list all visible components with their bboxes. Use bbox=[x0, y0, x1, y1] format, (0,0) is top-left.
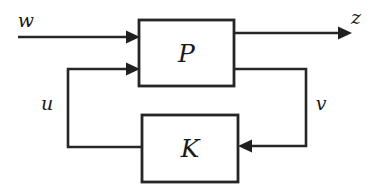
block-diagram-canvas: P K w z u v bbox=[0, 0, 376, 190]
signal-label-z: z bbox=[350, 6, 362, 28]
wire-v-feedback bbox=[234, 69, 306, 146]
signal-label-u: u bbox=[41, 92, 53, 114]
block-controller-label: K bbox=[180, 134, 201, 163]
block-diagram-svg: P K w z u v bbox=[0, 0, 376, 190]
block-plant[interactable]: P bbox=[139, 20, 234, 86]
block-plant-label: P bbox=[177, 39, 196, 68]
arrowhead-z-output bbox=[338, 27, 352, 40]
arrowhead-v-into-controller bbox=[238, 140, 252, 153]
signal-label-v: v bbox=[316, 92, 327, 114]
wire-u-feedback bbox=[68, 69, 142, 147]
signal-label-w: w bbox=[18, 9, 34, 31]
block-controller[interactable]: K bbox=[142, 115, 238, 182]
